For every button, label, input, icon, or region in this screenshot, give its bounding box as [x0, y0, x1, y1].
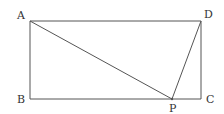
rectangle-abcd	[30, 21, 201, 99]
geometry-diagram: A B C D P	[0, 0, 224, 114]
label-c: C	[206, 93, 214, 106]
label-a: A	[16, 9, 26, 22]
label-d: D	[204, 8, 213, 21]
label-b: B	[17, 93, 25, 106]
point-p-dot	[171, 98, 173, 100]
label-p: P	[169, 102, 177, 114]
segment-ap	[30, 21, 172, 99]
segment-dp	[172, 21, 201, 99]
